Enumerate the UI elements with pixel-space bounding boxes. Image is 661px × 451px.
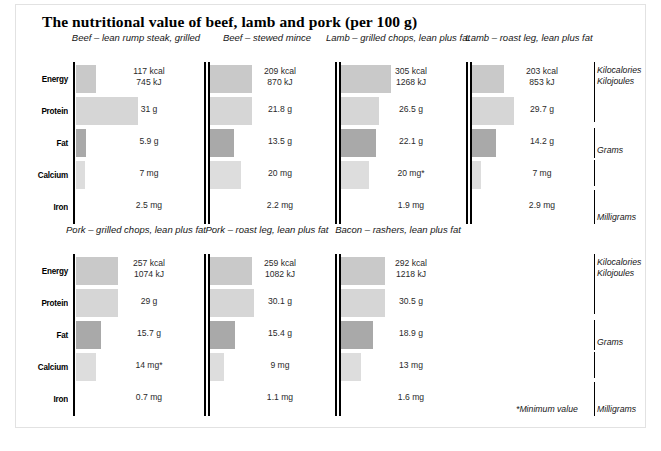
bar-calcium (76, 161, 85, 189)
axis-line (73, 126, 75, 160)
axis-line (204, 126, 206, 160)
axis-line (335, 350, 337, 384)
row-label-protein: Protein (20, 298, 68, 308)
bar-calcium (472, 161, 481, 189)
value-beef-lean-rump-steak-grilled-energy: 117 kcal 745 kJ (103, 66, 195, 87)
bar-calcium (341, 353, 361, 381)
value-beef-lean-rump-steak-grilled-iron: 2.5 mg (103, 200, 195, 211)
axis-line (466, 62, 468, 96)
chart-frame: The nutritional value of beef, lamb and … (15, 4, 646, 428)
row-label-iron: Iron (20, 394, 68, 404)
row-label-calcium: Calcium (20, 362, 68, 372)
axis-line (335, 94, 337, 128)
value-lamb-grilled-chops-lean-plus-fat-protein: 26.5 g (365, 104, 457, 115)
bar-fat (210, 129, 234, 157)
value-lamb-roast-leg-lean-plus-fat-calcium: 7 mg (496, 168, 588, 179)
axis-line (204, 254, 206, 288)
axis-line (466, 94, 468, 128)
row-label-fat: Fat (20, 330, 68, 340)
value-lamb-roast-leg-lean-plus-fat-protein: 29.7 g (496, 104, 588, 115)
column-header-pork-grilled-chops-lean-plus-fat: Pork – grilled chops, lean plus fat (61, 224, 211, 236)
chart-panel-top: EnergyProteinFatCalciumIronBeef – lean r… (16, 26, 647, 216)
unit-label-energy: Kilocalories Kilojoules (597, 257, 641, 278)
value-bacon-rashers-lean-plus-fat-iron: 1.6 mg (365, 392, 457, 403)
axis-line (335, 158, 337, 192)
value-beef-lean-rump-steak-grilled-calcium: 7 mg (103, 168, 195, 179)
value-pork-grilled-chops-lean-plus-fat-iron: 0.7 mg (103, 392, 195, 403)
unit-tick (594, 352, 595, 378)
axis-line (335, 382, 337, 416)
value-beef-stewed-mince-energy: 209 kcal 870 kJ (234, 66, 326, 87)
value-beef-lean-rump-steak-grilled-protein: 31 g (103, 104, 195, 115)
row-label-energy: Energy (20, 266, 68, 276)
value-beef-stewed-mince-protein: 21.8 g (234, 104, 326, 115)
value-lamb-grilled-chops-lean-plus-fat-iron: 1.9 mg (365, 200, 457, 211)
axis-line (73, 350, 75, 384)
axis-line (335, 254, 337, 288)
chart-panel-bottom: EnergyProteinFatCalciumIronPork – grille… (16, 218, 647, 408)
axis-line (335, 286, 337, 320)
axis-line (335, 126, 337, 160)
footnote-minimum-value: *Minimum value (516, 404, 578, 414)
column-header-lamb-grilled-chops-lean-plus-fat: Lamb – grilled chops, lean plus fat (323, 32, 473, 44)
column-header-pork-roast-leg-lean-plus-fat: Pork – roast leg, lean plus fat (192, 224, 342, 236)
axis-line (73, 318, 75, 352)
unit-label-milligrams: Milligrams (597, 404, 636, 415)
column-header-beef-lean-rump-steak-grilled: Beef – lean rump steak, grilled (61, 32, 211, 44)
axis-line (466, 158, 468, 192)
value-beef-stewed-mince-calcium: 20 mg (234, 168, 326, 179)
axis-line (204, 94, 206, 128)
value-pork-roast-leg-lean-plus-fat-energy: 259 kcal 1082 kJ (234, 258, 326, 279)
row-label-calcium: Calcium (20, 170, 68, 180)
unit-tick (594, 320, 595, 350)
column-header-bacon-rashers-lean-plus-fat: Bacon – rashers, lean plus fat (323, 224, 473, 236)
value-pork-grilled-chops-lean-plus-fat-protein: 29 g (103, 296, 195, 307)
bar-calcium (76, 353, 96, 381)
unit-label-energy: Kilocalories Kilojoules (597, 65, 641, 86)
value-bacon-rashers-lean-plus-fat-energy: 292 kcal 1218 kJ (365, 258, 457, 279)
column-header-beef-stewed-mince: Beef – stewed mince (192, 32, 342, 44)
unit-tick (594, 160, 595, 186)
axis-line (73, 382, 75, 416)
axis-line (73, 158, 75, 192)
unit-label-grams: Grams (597, 337, 623, 348)
unit-tick (594, 254, 595, 288)
row-label-fat: Fat (20, 138, 68, 148)
value-pork-grilled-chops-lean-plus-fat-calcium: 14 mg* (103, 360, 195, 371)
value-pork-roast-leg-lean-plus-fat-fat: 15.4 g (234, 328, 326, 339)
bar-fat (76, 321, 101, 349)
value-beef-stewed-mince-iron: 2.2 mg (234, 200, 326, 211)
bar-fat (472, 129, 496, 157)
bar-fat (210, 321, 235, 349)
value-beef-lean-rump-steak-grilled-fat: 5.9 g (103, 136, 195, 147)
value-lamb-grilled-chops-lean-plus-fat-calcium: 20 mg* (365, 168, 457, 179)
value-lamb-roast-leg-lean-plus-fat-iron: 2.9 mg (496, 200, 588, 211)
value-bacon-rashers-lean-plus-fat-fat: 18.9 g (365, 328, 457, 339)
value-lamb-roast-leg-lean-plus-fat-fat: 14.2 g (496, 136, 588, 147)
axis-line (335, 318, 337, 352)
value-beef-stewed-mince-fat: 13.5 g (234, 136, 326, 147)
axis-line (204, 382, 206, 416)
value-pork-grilled-chops-lean-plus-fat-energy: 257 kcal 1074 kJ (103, 258, 195, 279)
row-label-protein: Protein (20, 106, 68, 116)
axis-line (204, 350, 206, 384)
axis-line (204, 318, 206, 352)
unit-tick (594, 382, 595, 416)
value-pork-roast-leg-lean-plus-fat-calcium: 9 mg (234, 360, 326, 371)
value-lamb-grilled-chops-lean-plus-fat-energy: 305 kcal 1268 kJ (365, 66, 457, 87)
unit-tick (594, 96, 595, 122)
unit-tick (594, 128, 595, 158)
unit-tick (594, 288, 595, 314)
axis-line (466, 126, 468, 160)
bar-energy (76, 65, 96, 93)
column-header-lamb-roast-leg-lean-plus-fat: Lamb – roast leg, lean plus fat (454, 32, 604, 44)
axis-line (204, 62, 206, 96)
axis-line (335, 62, 337, 96)
value-lamb-roast-leg-lean-plus-fat-energy: 203 kcal 853 kJ (496, 66, 588, 87)
value-bacon-rashers-lean-plus-fat-calcium: 13 mg (365, 360, 457, 371)
axis-line (73, 62, 75, 96)
value-pork-roast-leg-lean-plus-fat-iron: 1.1 mg (234, 392, 326, 403)
row-label-energy: Energy (20, 74, 68, 84)
bar-fat (76, 129, 86, 157)
axis-line (204, 286, 206, 320)
